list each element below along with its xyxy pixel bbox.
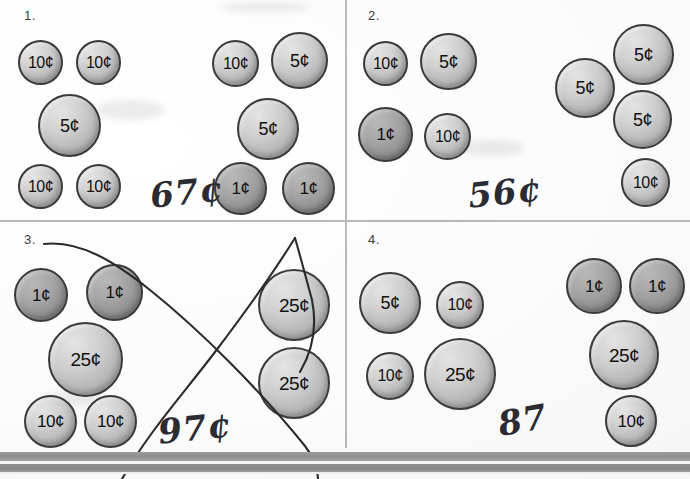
- bar-band-top: [0, 452, 690, 461]
- coin-value-label: 1¢: [106, 284, 124, 301]
- coin-nickel: 5¢: [38, 94, 101, 157]
- coin-value-label: 25¢: [279, 373, 309, 392]
- coin-penny: 1¢: [566, 258, 622, 314]
- problem-number-3: 3.: [24, 232, 36, 247]
- handwritten-answer-4: 87: [495, 396, 551, 444]
- bar-band-edge: [0, 472, 690, 474]
- coin-dime: 10¢: [436, 281, 484, 329]
- coin-nickel: 5¢: [359, 272, 421, 334]
- coin-nickel: 5¢: [237, 98, 299, 160]
- scan-smudge: [220, 2, 310, 12]
- handwritten-answer-3: 97¢: [156, 404, 234, 452]
- coin-value-label: 1¢: [300, 180, 318, 197]
- coin-nickel: 5¢: [613, 90, 672, 149]
- page-bottom-bar: [0, 452, 690, 476]
- coin-value-label: 25¢: [445, 364, 475, 383]
- coin-dime: 10¢: [18, 164, 63, 209]
- coin-value-label: 10¢: [618, 412, 645, 429]
- problem-number-2: 2.: [368, 8, 380, 23]
- coin-penny: 1¢: [629, 258, 685, 314]
- bar-band-bottom: [0, 464, 690, 472]
- coin-value-label: 10¢: [86, 178, 111, 194]
- coin-value-label: 1¢: [377, 126, 395, 143]
- coin-dime: 10¢: [363, 41, 408, 86]
- coin-value-label: 5¢: [258, 120, 277, 138]
- coin-nickel: 5¢: [555, 58, 615, 118]
- coin-quarter: 25¢: [258, 347, 330, 419]
- coin-dime: 10¢: [605, 395, 657, 447]
- coin-dime: 10¢: [24, 395, 77, 448]
- coin-value-label: 1¢: [585, 277, 603, 294]
- coin-penny: 1¢: [14, 268, 68, 322]
- coin-value-label: 5¢: [633, 110, 652, 128]
- coin-value-label: 10¢: [97, 413, 124, 430]
- coin-dime: 10¢: [621, 158, 670, 207]
- coin-penny: 1¢: [358, 107, 413, 162]
- handwritten-answer-2: 56¢: [466, 168, 544, 216]
- coin-quarter: 25¢: [258, 269, 330, 341]
- coin-value-label: 5¢: [380, 294, 399, 312]
- coin-value-label: 5¢: [439, 52, 458, 70]
- coin-value-label: 25¢: [70, 350, 100, 369]
- coin-dime: 10¢: [212, 40, 259, 87]
- coin-quarter: 25¢: [48, 322, 123, 397]
- coin-value-label: 10¢: [37, 413, 64, 430]
- coin-value-label: 10¢: [86, 54, 111, 70]
- coin-value-label: 10¢: [435, 128, 460, 144]
- coin-value-label: 10¢: [373, 55, 398, 71]
- horizontal-divider: [0, 220, 690, 222]
- problem-number-4: 4.: [368, 232, 380, 247]
- coin-value-label: 5¢: [60, 116, 79, 134]
- coin-value-label: 10¢: [28, 54, 53, 70]
- coin-value-label: 1¢: [32, 286, 50, 303]
- coin-quarter: 25¢: [589, 320, 659, 390]
- coin-dime: 10¢: [424, 113, 471, 160]
- coin-dime: 10¢: [18, 40, 63, 85]
- coin-nickel: 5¢: [420, 33, 477, 90]
- coin-value-label: 25¢: [279, 295, 309, 314]
- coin-value-label: 10¢: [633, 174, 658, 190]
- coin-dime: 10¢: [76, 164, 121, 209]
- coin-value-label: 10¢: [223, 55, 248, 71]
- coin-dime: 10¢: [76, 40, 121, 85]
- vertical-divider: [345, 0, 347, 448]
- coin-penny: 1¢: [86, 264, 143, 321]
- scan-smudge: [95, 100, 165, 120]
- coin-value-label: 5¢: [575, 79, 594, 97]
- coin-dime: 10¢: [366, 352, 414, 400]
- coin-value-label: 10¢: [447, 297, 472, 313]
- coin-value-label: 25¢: [609, 345, 639, 364]
- problem-number-1: 1.: [24, 8, 36, 23]
- coin-nickel: 5¢: [613, 24, 674, 85]
- coin-dime: 10¢: [84, 395, 137, 448]
- coin-value-label: 5¢: [634, 45, 653, 63]
- handwritten-answer-1: 67¢: [148, 168, 226, 216]
- coin-value-label: 1¢: [648, 277, 666, 294]
- coin-value-label: 5¢: [290, 51, 309, 69]
- coin-value-label: 1¢: [232, 180, 250, 197]
- coin-quarter: 25¢: [424, 338, 496, 410]
- coin-value-label: 10¢: [28, 178, 53, 194]
- coin-penny: 1¢: [282, 162, 335, 215]
- coin-nickel: 5¢: [271, 32, 328, 89]
- worksheet-page: 1. 10¢ 10¢ 5¢ 10¢ 10¢ 10¢ 5¢ 5¢ 1¢ 1¢ 67…: [0, 0, 690, 479]
- coin-value-label: 10¢: [377, 368, 402, 384]
